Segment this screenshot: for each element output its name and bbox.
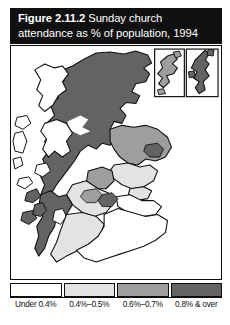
scotland-choropleth-map — [11, 46, 221, 279]
map-area-tayside — [110, 163, 158, 189]
map-legend: Under 0.4% 0.4%–0.5% 0.6%–0.7% 0.8% & ov… — [10, 283, 222, 313]
legend-swatch-row — [10, 283, 222, 297]
map-island-north-uist — [15, 115, 31, 129]
inset-shetland — [186, 49, 218, 97]
legend-label-0-6-to-0-7: 0.6%–0.7% — [117, 298, 169, 312]
legend-label-row: Under 0.4% 0.4%–0.5% 0.6%–0.7% 0.8% & ov… — [10, 297, 222, 312]
legend-label-0-4-to-0-5: 0.4%–0.5% — [64, 298, 116, 312]
legend-swatch-0-6-to-0-7 — [117, 283, 169, 297]
map-island-coll-tiree — [17, 177, 33, 189]
map-panel — [10, 45, 222, 280]
map-area-shetland-west-isle — [188, 71, 195, 78]
figure-title-bar: Figure 2.11.2 Sunday church attendance a… — [10, 8, 222, 44]
legend-swatch-under-0-4 — [10, 283, 62, 297]
inset-orkney — [155, 49, 185, 97]
figure-title: Figure 2.11.2 Sunday church attendance a… — [18, 11, 215, 41]
figure-number: Figure 2.11.2 — [18, 12, 85, 24]
map-area-shetland-north-isle — [207, 49, 214, 56]
map-area-orkney-small-isle — [158, 89, 166, 95]
legend-label-0-8-and-over: 0.8% & over — [171, 298, 223, 312]
legend-label-under-0-4: Under 0.4% — [10, 298, 62, 312]
map-island-skye — [41, 119, 73, 157]
legend-swatch-0-4-to-0-5 — [64, 283, 116, 297]
map-area-grampian — [110, 125, 171, 165]
map-island-barra — [13, 157, 23, 169]
map-island-mull — [25, 189, 41, 203]
figure-panel: Figure 2.11.2 Sunday church attendance a… — [0, 0, 230, 325]
map-island-south-uist — [13, 131, 27, 153]
legend-swatch-0-8-and-over — [171, 283, 223, 297]
